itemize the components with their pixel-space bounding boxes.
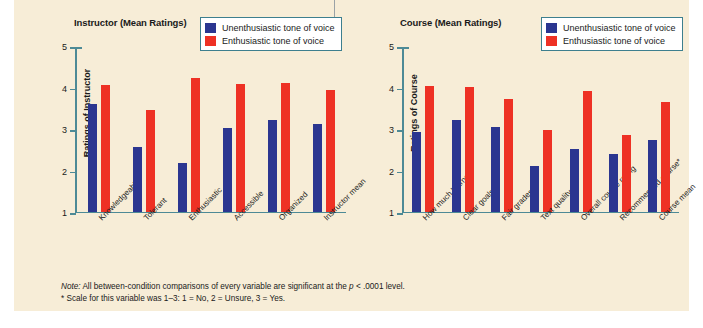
bar-unenthusiastic (491, 127, 500, 212)
y-tick-label: 1 (62, 208, 67, 218)
bar-unenthusiastic (570, 149, 579, 212)
bar-group: Text quality (522, 47, 561, 212)
bar-group: Organized (256, 47, 301, 212)
y-tick-label: 5 (62, 42, 67, 52)
legend-item-unenthusiastic: Unenthusiastic tone of voice (546, 21, 676, 34)
bar-group: Instructor mean (301, 47, 346, 212)
bar-unenthusiastic (530, 166, 539, 212)
bar-group: Tolerant (121, 47, 166, 212)
bar-unenthusiastic (133, 147, 142, 212)
figure-note-line-1: Note: All between-condition comparisons … (61, 281, 405, 293)
bar-enthusiastic (281, 83, 290, 211)
bar-group: Accessible (211, 47, 256, 212)
bar-group: Clear goals (443, 47, 482, 212)
y-tick-mark (70, 172, 76, 174)
legend-swatch-unenthusiastic (546, 23, 557, 33)
legend-label-enthusiastic: Enthusiastic tone of voice (222, 36, 324, 46)
bar-group: Enthusiastic (166, 47, 211, 212)
bar-enthusiastic (146, 110, 155, 212)
figure-note-text-suffix: < .0001 level. (354, 282, 405, 291)
y-tick-mark (397, 89, 403, 91)
bar-groups-course: How much learnedClear goalsFair gradesTe… (404, 47, 680, 212)
figure-note: Note: All between-condition comparisons … (61, 281, 405, 304)
bar-group: Course mean (640, 47, 679, 212)
legend-label-unenthusiastic: Unenthusiastic tone of voice (222, 23, 335, 33)
y-tick-label: 1 (389, 208, 394, 218)
plot-area-instructor: 12345 KnowledgeableTolerantEnthusiasticA… (75, 47, 346, 213)
bar-unenthusiastic (412, 132, 421, 212)
bar-unenthusiastic (609, 154, 618, 212)
chart-instructor: Instructor (Mean Ratings) Ratings of Ins… (14, 0, 358, 311)
y-tick-mark (70, 47, 76, 49)
bar-group: Fair grades (482, 47, 521, 212)
bar-enthusiastic (425, 86, 434, 211)
bar-group: Knowledgeable (77, 47, 122, 212)
y-tick-mark (397, 172, 403, 174)
legend-swatch-enthusiastic (205, 36, 216, 46)
bar-enthusiastic (236, 84, 245, 211)
y-tick-label: 3 (389, 125, 394, 135)
x-axis-line (75, 212, 346, 214)
figure-note-line-2: * Scale for this variable was 1–3: 1 = N… (61, 293, 405, 305)
legend-swatch-unenthusiastic (205, 23, 216, 33)
y-tick-label: 2 (62, 167, 67, 177)
legend-item-enthusiastic: Enthusiastic tone of voice (205, 34, 335, 47)
plot-area-course: 12345 How much learnedClear goalsFair gr… (402, 47, 679, 213)
bar-enthusiastic (583, 91, 592, 211)
y-tick-mark (70, 130, 76, 132)
legend-course: Unenthusiastic tone of voice Enthusiasti… (541, 17, 683, 51)
y-tick-label: 4 (389, 84, 394, 94)
bar-unenthusiastic (178, 163, 187, 211)
bar-enthusiastic (101, 85, 110, 212)
y-tick-label: 4 (62, 84, 67, 94)
bar-enthusiastic (661, 102, 670, 212)
bar-unenthusiastic (223, 128, 232, 211)
y-tick-mark (397, 130, 403, 132)
legend-item-enthusiastic: Enthusiastic tone of voice (546, 34, 676, 47)
bar-enthusiastic (326, 90, 335, 211)
legend-item-unenthusiastic: Unenthusiastic tone of voice (205, 21, 335, 34)
bar-enthusiastic (543, 130, 552, 212)
bar-unenthusiastic (648, 140, 657, 212)
bar-group: How much learned (404, 47, 443, 212)
bar-enthusiastic (465, 87, 474, 211)
legend-label-enthusiastic: Enthusiastic tone of voice (563, 36, 665, 46)
figure-note-label: Note: (61, 282, 81, 291)
bar-unenthusiastic (268, 120, 277, 211)
y-tick-mark (397, 47, 403, 49)
legend-instructor: Unenthusiastic tone of voice Enthusiasti… (200, 17, 342, 51)
y-tick-mark (70, 213, 76, 215)
figure-panel: Instructor (Mean Ratings) Ratings of Ins… (14, 0, 689, 311)
bar-group: Overall course rating (561, 47, 600, 212)
bar-unenthusiastic (88, 104, 97, 212)
figure-note-text: All between-condition comparisons of eve… (81, 282, 350, 291)
y-tick-label: 5 (389, 42, 394, 52)
bar-unenthusiastic (452, 120, 461, 212)
chart-title-course: Course (Mean Ratings) (400, 17, 501, 28)
bar-unenthusiastic (313, 124, 322, 211)
y-tick-mark (397, 213, 403, 215)
legend-swatch-enthusiastic (546, 36, 557, 46)
chart-course: Course (Mean Ratings) Ratings of Course … (358, 0, 689, 311)
y-tick-label: 2 (389, 167, 394, 177)
chart-title-instructor: Instructor (Mean Ratings) (74, 17, 187, 28)
bar-enthusiastic (622, 135, 631, 211)
y-tick-label: 3 (62, 125, 67, 135)
bar-group: Recommended course* (600, 47, 639, 212)
bar-enthusiastic (504, 99, 513, 211)
bar-enthusiastic (191, 78, 200, 211)
y-tick-mark (70, 89, 76, 91)
bar-groups-instructor: KnowledgeableTolerantEnthusiasticAccessi… (77, 47, 347, 212)
legend-label-unenthusiastic: Unenthusiastic tone of voice (563, 23, 676, 33)
